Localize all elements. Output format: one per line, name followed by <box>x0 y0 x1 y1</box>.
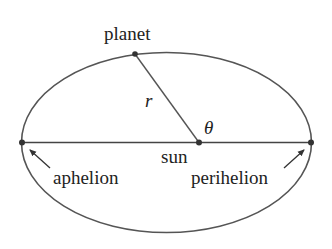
aphelion-arrow <box>30 150 50 168</box>
aphelion-label: aphelion <box>53 167 119 188</box>
aphelion-dot <box>19 140 25 146</box>
perihelion-label: perihelion <box>191 167 269 188</box>
angle-label: θ <box>204 117 213 138</box>
perihelion-arrow <box>284 150 304 168</box>
planet-label: planet <box>104 23 151 44</box>
sun-label: sun <box>161 146 188 167</box>
orbit-diagram: planet r θ sun aphelion perihelion <box>0 0 332 249</box>
perihelion-dot <box>308 140 314 146</box>
planet-dot <box>132 51 138 57</box>
radius-label: r <box>145 90 153 111</box>
sun-dot <box>196 140 202 146</box>
